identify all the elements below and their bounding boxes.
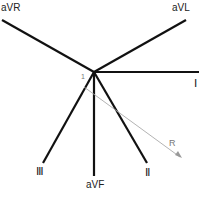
lead-iii-axis [43,72,94,163]
label-avf: aVF [86,180,104,190]
label-ii: Ⅱ [145,167,150,178]
lead-avl-axis [94,20,186,72]
label-i: Ⅰ [194,78,197,89]
hexaxial-diagram [0,0,199,205]
label-avl: aVL [172,3,190,13]
r-vector-arrow [84,87,182,158]
label-r-vector: R [169,139,176,148]
label-vector-start: 1 [81,73,85,80]
label-avr: aVR [1,3,20,13]
label-iii: Ⅲ [36,166,44,177]
lead-ii-axis [94,72,147,163]
lead-avr-axis [2,20,94,72]
